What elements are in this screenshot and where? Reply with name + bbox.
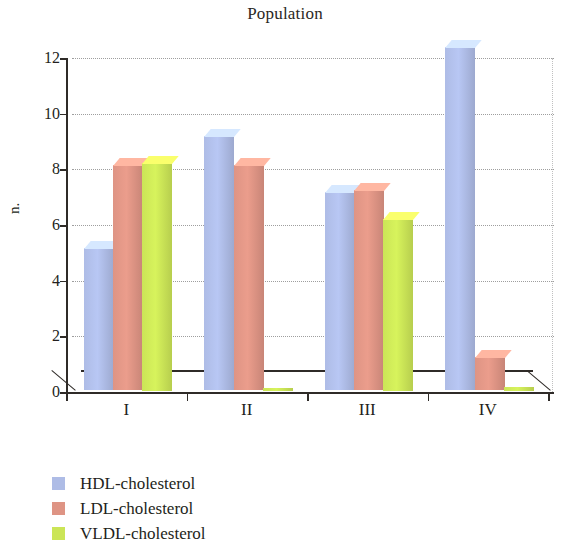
bar-top xyxy=(142,156,179,164)
x-axis-tick xyxy=(187,392,189,401)
x-axis-tick xyxy=(428,392,430,401)
legend-swatch-icon xyxy=(52,502,65,515)
bar-face xyxy=(383,219,413,392)
x-axis-tick xyxy=(66,392,68,401)
x-axis-tick xyxy=(548,392,550,401)
x-axis-tick xyxy=(307,392,309,401)
bar-top xyxy=(354,183,391,191)
bar-II-vldl-cholesterol xyxy=(263,388,293,391)
x-axis-line xyxy=(66,392,554,394)
bar-I-vldl-cholesterol xyxy=(142,163,172,391)
legend-item[interactable]: VLDL-cholesterol xyxy=(52,522,452,544)
bar-II-ldl-cholesterol xyxy=(234,165,264,390)
bar-face xyxy=(204,136,234,389)
bar-face xyxy=(325,192,355,390)
bar-top xyxy=(475,350,512,358)
bar-top xyxy=(445,40,482,48)
bar-IV-hdl-cholesterol xyxy=(445,47,475,389)
bar-face xyxy=(354,190,384,390)
bar-II-hdl-cholesterol xyxy=(204,136,234,389)
bar-face xyxy=(504,387,534,391)
chart-legend: HDL-cholesterolLDL-cholesterolVLDL-chole… xyxy=(52,472,452,544)
x-axis-label-III: III xyxy=(359,400,376,420)
bar-I-hdl-cholesterol xyxy=(84,248,114,390)
bar-III-hdl-cholesterol xyxy=(325,192,355,390)
bar-I-ldl-cholesterol xyxy=(113,165,143,390)
bar-face xyxy=(445,47,475,389)
x-axis-label-IV: IV xyxy=(479,400,497,420)
bar-face xyxy=(113,165,143,390)
bar-face xyxy=(84,248,114,390)
legend-label: LDL-cholesterol xyxy=(80,500,193,517)
legend-swatch-icon xyxy=(52,477,65,490)
legend-swatch-icon xyxy=(52,527,65,540)
legend-label: VLDL-cholesterol xyxy=(80,525,206,542)
bar-face xyxy=(234,165,264,390)
bar-top xyxy=(234,158,271,166)
bar-face xyxy=(142,163,172,391)
bar-face xyxy=(263,388,293,391)
bar-III-ldl-cholesterol xyxy=(354,190,384,390)
bar-top xyxy=(383,212,420,220)
bar-IV-ldl-cholesterol xyxy=(475,357,505,390)
legend-item[interactable]: HDL-cholesterol xyxy=(52,472,452,494)
x-axis-label-II: II xyxy=(241,400,252,420)
bar-IV-vldl-cholesterol xyxy=(504,387,534,391)
legend-item[interactable]: LDL-cholesterol xyxy=(52,497,452,519)
bar-III-vldl-cholesterol xyxy=(383,219,413,392)
bar-face xyxy=(475,357,505,390)
legend-label: HDL-cholesterol xyxy=(80,475,195,492)
bar-top xyxy=(204,129,241,137)
x-axis-label-I: I xyxy=(123,400,129,420)
